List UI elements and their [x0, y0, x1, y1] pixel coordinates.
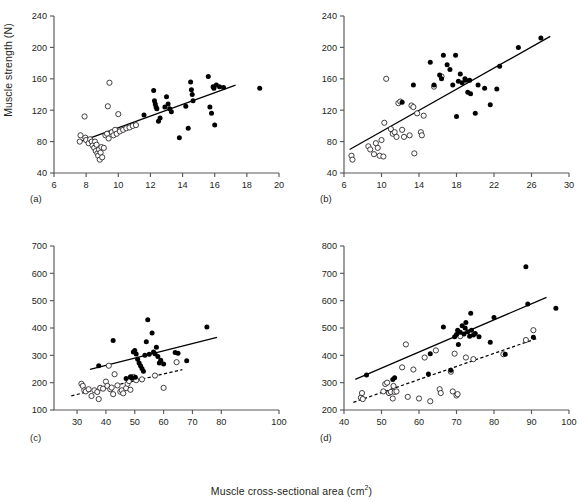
data-point: [150, 330, 155, 335]
y-tick-label: 240: [32, 11, 47, 21]
data-point: [503, 352, 508, 357]
data-point: [463, 320, 468, 325]
y-tick-label: 300: [32, 351, 47, 361]
data-point: [473, 111, 478, 116]
y-tick-label: 120: [32, 106, 47, 116]
panel-letter-c: (c): [30, 432, 41, 443]
data-point: [115, 383, 120, 388]
series-filled-circles: [142, 74, 263, 140]
data-point: [189, 87, 194, 92]
x-tick-label: 50: [130, 417, 140, 427]
y-tick-label: 80: [327, 137, 337, 147]
data-point: [382, 120, 387, 125]
data-point: [390, 396, 395, 401]
data-point: [133, 123, 138, 128]
x-tick-label: 40: [339, 417, 349, 427]
data-point: [454, 114, 459, 119]
x-tick-label: 22: [489, 180, 499, 190]
y-tick-label: 40: [37, 168, 47, 178]
data-point: [432, 83, 437, 88]
data-point: [204, 324, 209, 329]
x-tick-label: 18: [242, 180, 252, 190]
data-point: [77, 139, 82, 144]
data-point: [360, 396, 365, 401]
data-point: [477, 334, 482, 339]
data-point: [448, 368, 453, 373]
panel-letter-a: (a): [30, 193, 42, 204]
data-point: [553, 306, 558, 311]
data-point: [142, 112, 147, 117]
data-point: [145, 317, 150, 322]
data-point: [186, 126, 191, 131]
data-point: [111, 392, 116, 397]
y-tick-label: 300: [322, 378, 337, 388]
data-point: [450, 83, 455, 88]
data-point: [221, 85, 226, 90]
x-tick-label: 6: [51, 180, 56, 190]
data-point: [415, 111, 420, 116]
data-point: [438, 390, 443, 395]
data-point: [482, 86, 487, 91]
x-tick-label: 50: [376, 417, 386, 427]
x-tick-label: 30: [564, 180, 574, 190]
data-point: [428, 60, 433, 65]
data-point: [392, 375, 397, 380]
data-point: [531, 335, 536, 340]
data-point: [381, 154, 386, 159]
x-tick-label: 70: [451, 417, 461, 427]
data-point: [257, 86, 262, 91]
data-point: [467, 78, 472, 83]
data-point: [405, 394, 410, 399]
y-tick-label: 200: [322, 43, 337, 53]
data-point: [158, 116, 163, 121]
data-point: [411, 104, 416, 109]
scatter-plot-a: 408012016020024068101214161820: [18, 4, 293, 219]
x-tick-label: 16: [210, 180, 220, 190]
data-point: [152, 373, 157, 378]
axes-a: 408012016020024068101214161820: [32, 11, 284, 190]
data-point: [416, 396, 421, 401]
data-point: [455, 392, 460, 397]
data-point: [89, 393, 94, 398]
y-tick-label: 100: [32, 405, 47, 415]
data-point: [531, 328, 536, 333]
data-point: [106, 136, 111, 141]
data-point: [212, 123, 217, 128]
data-point: [441, 53, 446, 58]
y-tick-label: 200: [32, 378, 47, 388]
x-tick-label: 12: [145, 180, 155, 190]
panel-d: 200300400500600700800405060708090100(d): [308, 236, 583, 466]
data-point: [523, 337, 528, 342]
data-point: [411, 367, 416, 372]
data-point: [368, 147, 373, 152]
y-tick-label: 200: [32, 43, 47, 53]
data-point: [176, 351, 181, 356]
data-point: [426, 371, 431, 376]
data-point: [183, 104, 188, 109]
data-point: [403, 342, 408, 347]
data-point: [379, 137, 384, 142]
data-point: [400, 127, 405, 132]
data-point: [421, 113, 426, 118]
data-point: [441, 324, 446, 329]
y-tick-label: 80: [37, 137, 47, 147]
regression-line-solid: [350, 36, 551, 149]
x-tick-label: 10: [113, 180, 123, 190]
data-point: [458, 72, 463, 77]
data-point: [161, 385, 166, 390]
data-point: [428, 351, 433, 356]
data-point: [469, 328, 474, 333]
data-point: [169, 109, 174, 114]
data-point: [154, 106, 159, 111]
data-point: [151, 88, 156, 93]
data-point: [188, 79, 193, 84]
data-point: [422, 355, 427, 360]
x-tick-label: 20: [274, 180, 284, 190]
data-point: [109, 385, 114, 390]
data-point: [184, 358, 189, 363]
data-point: [516, 45, 521, 50]
data-point: [400, 365, 405, 370]
data-point: [384, 76, 389, 81]
axes-c: 100200300400500600700304050607080100: [32, 241, 287, 427]
data-point: [359, 390, 364, 395]
